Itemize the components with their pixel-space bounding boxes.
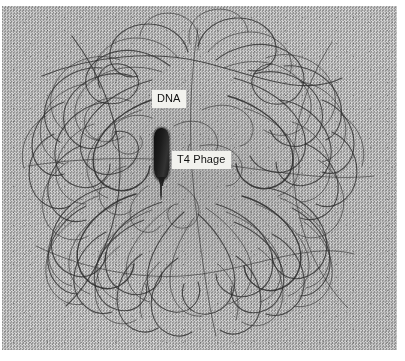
phage-tail-fiber: [160, 184, 162, 200]
label-t4-phage: T4 Phage: [172, 151, 231, 169]
dna-filament-network: [2, 6, 397, 350]
label-dna: DNA: [152, 90, 186, 108]
phage-capsid-head: [154, 128, 169, 180]
t4-phage-particle: [152, 128, 174, 198]
electron-micrograph-figure: DNA T4 Phage: [0, 0, 405, 361]
micrograph-plate: DNA T4 Phage: [2, 6, 397, 350]
